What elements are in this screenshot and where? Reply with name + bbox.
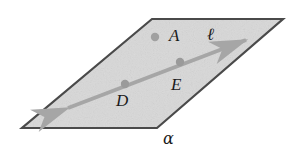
- point-e-dot: [176, 58, 184, 66]
- figure-canvas: [0, 0, 304, 158]
- geometry-figure: A E D ℓ α: [0, 0, 304, 158]
- point-d-label: D: [116, 92, 128, 109]
- point-a-dot: [151, 33, 159, 41]
- point-a-label: A: [169, 27, 179, 44]
- line-l-label: ℓ: [207, 26, 214, 43]
- point-d-dot: [121, 80, 129, 88]
- plane-alpha-label: α: [163, 131, 174, 147]
- point-e-label: E: [171, 76, 181, 93]
